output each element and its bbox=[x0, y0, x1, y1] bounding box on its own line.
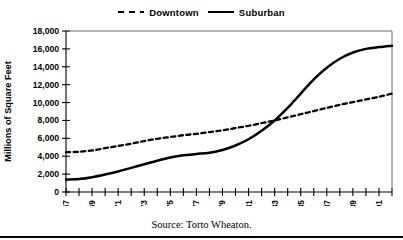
svg-text:Millions of Square Feet: Millions of Square Feet bbox=[3, 61, 13, 162]
dashed-line-swatch-icon bbox=[118, 11, 144, 13]
line-chart-svg: Millions of Square Feet 02,0004,0006,000… bbox=[0, 20, 403, 206]
svg-text:1979: 1979 bbox=[217, 200, 227, 206]
svg-text:4,000: 4,000 bbox=[37, 151, 59, 161]
bottom-divider bbox=[0, 236, 403, 238]
y-axis-ticks: 02,0004,0006,0008,00010,00012,00014,0001… bbox=[33, 26, 70, 197]
svg-text:16,000: 16,000 bbox=[33, 44, 60, 54]
source-note: Source: Torto Wheaton. bbox=[0, 219, 403, 230]
svg-text:18,000: 18,000 bbox=[33, 26, 60, 36]
chart-legend: Downtown Suburban bbox=[0, 4, 403, 20]
legend-entry-suburban: Suburban bbox=[208, 7, 285, 18]
svg-text:0: 0 bbox=[54, 187, 59, 197]
svg-text:1977: 1977 bbox=[191, 200, 201, 206]
svg-text:10,000: 10,000 bbox=[33, 98, 60, 108]
svg-text:1987: 1987 bbox=[322, 200, 332, 206]
svg-text:1985: 1985 bbox=[296, 200, 306, 206]
svg-text:1989: 1989 bbox=[348, 200, 358, 206]
svg-text:2,000: 2,000 bbox=[37, 169, 59, 179]
chart-page: Downtown Suburban Millions of Square Fee… bbox=[0, 0, 403, 240]
svg-text:14,000: 14,000 bbox=[33, 62, 60, 72]
x-axis-ticks: 1967196919711973197519771979198119831985… bbox=[61, 188, 392, 206]
legend-label-suburban: Suburban bbox=[239, 7, 285, 18]
svg-text:8,000: 8,000 bbox=[37, 115, 59, 125]
svg-text:6,000: 6,000 bbox=[37, 133, 59, 143]
svg-text:1969: 1969 bbox=[87, 200, 97, 206]
plot-frame bbox=[66, 31, 392, 192]
svg-text:1981: 1981 bbox=[244, 200, 254, 206]
svg-text:1991: 1991 bbox=[374, 200, 384, 206]
svg-text:1975: 1975 bbox=[165, 200, 175, 206]
chart-plot-area: Millions of Square Feet 02,0004,0006,000… bbox=[0, 20, 403, 206]
series-path-downtown bbox=[66, 94, 392, 153]
y-axis-title: Millions of Square Feet bbox=[3, 61, 13, 162]
solid-line-swatch-icon bbox=[208, 11, 234, 14]
svg-text:12,000: 12,000 bbox=[33, 80, 60, 90]
svg-text:1973: 1973 bbox=[139, 200, 149, 206]
svg-text:1983: 1983 bbox=[270, 200, 280, 206]
legend-entry-downtown: Downtown bbox=[118, 7, 199, 18]
series-path-suburban bbox=[66, 46, 392, 180]
svg-text:1967: 1967 bbox=[61, 200, 71, 206]
data-series-group bbox=[66, 46, 392, 180]
svg-text:1971: 1971 bbox=[113, 200, 123, 206]
legend-label-downtown: Downtown bbox=[149, 7, 199, 18]
